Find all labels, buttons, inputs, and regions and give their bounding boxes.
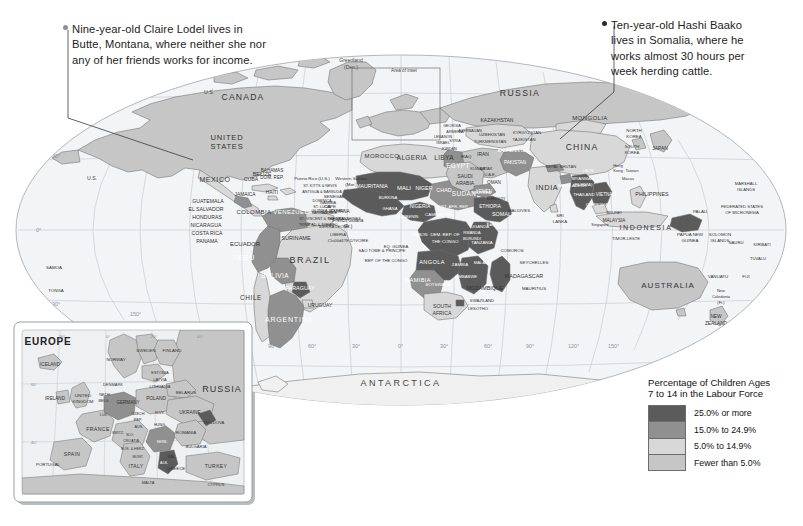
svg-text:40°: 40° — [31, 440, 38, 445]
svg-text:120°: 120° — [568, 343, 579, 349]
svg-text:KIRIBATI: KIRIBATI — [753, 242, 770, 247]
svg-text:BURKINA: BURKINA — [379, 195, 398, 200]
legend-label: Fewer than 5.0% — [694, 458, 761, 468]
svg-text:ETHIOPIA: ETHIOPIA — [479, 204, 501, 209]
svg-text:U.S.: U.S. — [204, 89, 214, 95]
svg-text:KYRGYZSTAN: KYRGYZSTAN — [513, 130, 541, 135]
svg-text:Macau: Macau — [622, 176, 634, 181]
svg-text:BOLIVIA: BOLIVIA — [261, 272, 289, 279]
legend-label: 15.0% to 24.9% — [694, 425, 756, 435]
svg-text:CZECH: CZECH — [131, 412, 144, 416]
annotation-claire-lodel: Nine-year-old Claire Lodel lives in Butt… — [72, 22, 307, 68]
svg-text:TIMOR-LESTE: TIMOR-LESTE — [612, 236, 640, 241]
svg-text:JAMAICA: JAMAICA — [235, 192, 257, 197]
svg-text:EL SALVADOR: EL SALVADOR — [188, 206, 223, 212]
svg-text:CAMEROON: CAMEROON — [425, 212, 451, 217]
svg-text:COSTA RICA: COSTA RICA — [191, 230, 223, 236]
svg-text:CYPRUS: CYPRUS — [208, 482, 225, 487]
legend-row: 25.0% or more — [648, 405, 798, 422]
svg-text:MONT.: MONT. — [132, 455, 143, 459]
svg-text:ISRAEL: ISRAEL — [436, 141, 450, 145]
svg-text:NAMIBIA: NAMIBIA — [405, 277, 431, 283]
svg-text:SAUDI: SAUDI — [457, 173, 472, 179]
legend-label: 25.0% or more — [694, 408, 752, 418]
svg-text:(BURMA): (BURMA) — [574, 182, 593, 187]
legend-label: 5.0% to 14.9% — [694, 441, 751, 451]
svg-text:(Den.): (Den.) — [344, 64, 358, 70]
annotation-text: Nine-year-old Claire Lodel lives in Butt… — [72, 22, 307, 68]
svg-text:SAMOA: SAMOA — [46, 265, 62, 270]
svg-text:SIERRA LEONE: SIERRA LEONE — [319, 224, 350, 229]
svg-text:LIBYA: LIBYA — [434, 154, 454, 161]
svg-text:UNITED: UNITED — [210, 133, 243, 142]
svg-text:SLO.: SLO. — [126, 433, 134, 437]
svg-text:FINLAND: FINLAND — [163, 348, 182, 353]
svg-text:REP.: REP. — [134, 418, 142, 422]
svg-text:LESOTHO: LESOTHO — [468, 306, 489, 311]
svg-text:GERMANY: GERMANY — [116, 400, 139, 405]
svg-text:90°: 90° — [268, 343, 276, 349]
svg-text:PANAMA: PANAMA — [196, 238, 218, 244]
map-page: CANADA UNITED STATES U.S. U.S. Greenland… — [0, 0, 803, 526]
svg-text:MAURITANIA: MAURITANIA — [356, 183, 388, 189]
svg-text:OF MICRONESIA: OF MICRONESIA — [725, 210, 759, 215]
svg-text:30°: 30° — [52, 153, 60, 159]
svg-text:(Fr.): (Fr.) — [717, 300, 725, 305]
svg-text:GAMBIA: GAMBIA — [320, 200, 336, 205]
svg-text:BHUTAN: BHUTAN — [560, 164, 576, 169]
svg-text:LAOS: LAOS — [583, 168, 594, 173]
legend-swatch — [648, 454, 686, 471]
svg-text:BENIN: BENIN — [406, 214, 419, 219]
svg-text:THE CONGO: THE CONGO — [432, 239, 459, 244]
svg-text:BRAZIL: BRAZIL — [289, 255, 330, 265]
svg-text:New: New — [717, 288, 725, 293]
svg-text:MALDIVES: MALDIVES — [508, 208, 530, 213]
svg-text:MOLDOVA: MOLDOVA — [204, 420, 225, 425]
svg-text:60°: 60° — [484, 343, 492, 349]
svg-text:VANUATU: VANUATU — [708, 274, 728, 279]
svg-text:U.S.: U.S. — [87, 175, 97, 181]
svg-text:AUS.: AUS. — [135, 425, 144, 429]
svg-text:KOREA: KOREA — [626, 134, 641, 139]
svg-text:40°: 40° — [197, 334, 204, 339]
svg-text:REP. OF THE CONGO: REP. OF THE CONGO — [365, 258, 408, 263]
svg-text:OMAN: OMAN — [487, 180, 501, 185]
svg-text:Caledonia: Caledonia — [712, 294, 731, 299]
svg-text:TUVALU: TUVALU — [750, 256, 766, 261]
svg-text:JAPAN: JAPAN — [652, 145, 668, 151]
svg-text:MAC.: MAC. — [168, 455, 177, 459]
svg-text:SYRIA: SYRIA — [449, 139, 461, 143]
svg-text:ST. KITTS & NEVIS: ST. KITTS & NEVIS — [303, 184, 337, 188]
svg-text:MAURITIUS: MAURITIUS — [522, 286, 546, 291]
svg-text:Taiwan: Taiwan — [625, 168, 639, 173]
svg-text:30°: 30° — [352, 343, 360, 349]
svg-text:VIETNAM: VIETNAM — [596, 192, 617, 197]
svg-text:BAHAMAS: BAHAMAS — [261, 168, 283, 173]
svg-text:GREECE: GREECE — [167, 466, 186, 471]
svg-text:SOUTH: SOUTH — [625, 144, 640, 149]
annotation-marker-light-dot — [63, 25, 68, 30]
svg-text:PAKISTAN: PAKISTAN — [504, 160, 526, 165]
svg-text:NORTH: NORTH — [626, 128, 642, 133]
svg-text:VENEZUELA: VENEZUELA — [273, 209, 312, 215]
legend-row: 15.0% to 24.9% — [648, 421, 798, 438]
svg-text:U.A.E.: U.A.E. — [484, 172, 496, 177]
svg-text:NIGERIA: NIGERIA — [410, 203, 431, 209]
svg-text:MYANMAR: MYANMAR — [572, 176, 594, 181]
svg-text:BRUNEI: BRUNEI — [606, 210, 621, 215]
svg-text:DEM. REP. OF: DEM. REP. OF — [430, 232, 460, 237]
svg-text:UKRAINE: UKRAINE — [179, 410, 200, 415]
svg-text:KOREA: KOREA — [625, 150, 640, 155]
svg-text:EGYPT: EGYPT — [446, 162, 470, 169]
svg-text:IRAQ: IRAQ — [461, 154, 472, 159]
svg-text:CHILE: CHILE — [240, 294, 262, 301]
svg-text:AZERBAIJAN: AZERBAIJAN — [458, 129, 482, 133]
legend-swatch — [648, 405, 686, 422]
svg-text:ZIMBABWE: ZIMBABWE — [455, 274, 478, 279]
svg-text:GUATEMALA: GUATEMALA — [192, 198, 224, 204]
svg-text:ALGERIA: ALGERIA — [397, 154, 428, 161]
svg-text:60°: 60° — [31, 382, 38, 387]
svg-text:FIJI: FIJI — [742, 274, 749, 279]
svg-text:BELARUS: BELARUS — [176, 390, 197, 395]
svg-text:GHANA: GHANA — [383, 206, 398, 211]
